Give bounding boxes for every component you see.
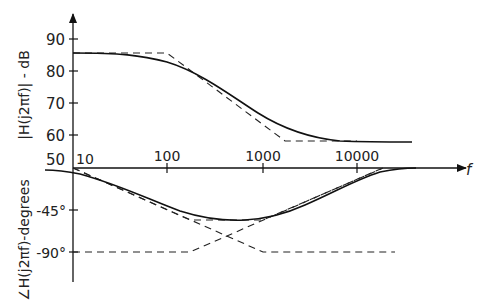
mag-tick-90: 90 bbox=[46, 31, 65, 49]
x-tick-100: 100 bbox=[154, 148, 181, 164]
phase-combined-asymptote bbox=[73, 168, 383, 220]
x-tick-10: 10 bbox=[76, 151, 94, 167]
magnitude-curve bbox=[73, 53, 412, 142]
x-tick-10000: 10000 bbox=[335, 148, 380, 164]
magnitude-asymptote bbox=[73, 53, 357, 141]
mag-tick-50: 50 bbox=[46, 151, 65, 169]
bode-plot: 90 80 70 60 50 -45° -90° 10 100 1000 100… bbox=[0, 0, 480, 307]
phase-tick-90: -90° bbox=[36, 245, 66, 261]
x-tick-1000: 1000 bbox=[245, 148, 281, 164]
magnitude-ticks bbox=[69, 39, 357, 252]
phase-pole-asymptote bbox=[73, 168, 395, 252]
mag-tick-70: 70 bbox=[46, 95, 65, 113]
magnitude-axis-title: |H(j2πf)| - dB bbox=[16, 50, 33, 139]
phase-curve bbox=[45, 168, 416, 220]
mag-tick-80: 80 bbox=[46, 63, 65, 81]
phase-zero-asymptote bbox=[73, 168, 383, 252]
mag-tick-60: 60 bbox=[46, 127, 65, 145]
phase-axis-title: ∠H(j2πf)-degrees bbox=[16, 179, 32, 301]
phase-tick-45: -45° bbox=[36, 203, 66, 219]
f-axis-label: f bbox=[466, 161, 474, 179]
